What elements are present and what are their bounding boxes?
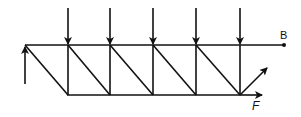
point-b-marker <box>282 43 286 47</box>
diagonal-member-3 <box>110 45 153 95</box>
diagonal-member-4 <box>153 45 196 95</box>
diagonal-member-5 <box>196 45 240 95</box>
force-f-label: F <box>252 99 260 113</box>
truss-diagram: B F <box>0 0 301 117</box>
diagonal-force-arrow <box>240 68 267 95</box>
diagonal-member-2 <box>68 45 110 95</box>
diagonal-member-1 <box>25 45 68 95</box>
point-b-label: B <box>280 29 287 41</box>
